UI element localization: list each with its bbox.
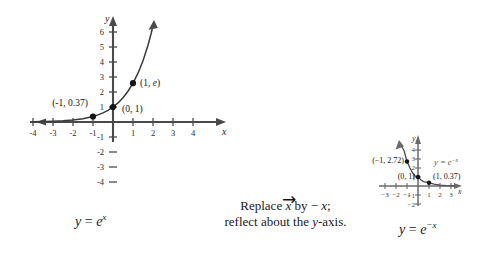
- point-label-0-1: (0, 1): [122, 104, 143, 115]
- x-tick-label: -4: [29, 128, 37, 138]
- x-tick-label: -2: [69, 128, 76, 138]
- inline-eq-main: y = e: [433, 157, 452, 167]
- left-eq-equals: =: [81, 214, 96, 229]
- right-eq-exponent: −x: [426, 220, 436, 230]
- y-tick-label: 3: [412, 155, 416, 163]
- line2-pre: reflect about the: [224, 214, 312, 229]
- x-tick-label: 1: [131, 128, 135, 138]
- right-equation-caption: y = e−x: [399, 222, 437, 238]
- x-tick-label: 4: [191, 128, 196, 138]
- y-tick-label: -3: [97, 162, 104, 172]
- inline-eq-exponent: −x: [452, 157, 459, 163]
- x-axis-label: x: [221, 126, 227, 137]
- point-label-1-e: (1, e): [140, 78, 160, 89]
- x-tick-label: 2: [151, 128, 155, 138]
- y-tick-label: -1: [97, 132, 104, 142]
- x-axis-label: x: [457, 187, 462, 196]
- right-graph-svg: −3 −2 −1 1 2 3 4 3 2 1 −1 −2 x y (−1, 2.…: [330, 124, 492, 216]
- line1-mid: by −: [291, 198, 321, 213]
- y-axis-label: y: [104, 13, 110, 24]
- y-tick-label: -2: [97, 147, 104, 157]
- figure-canvas: -4 -3 -2 -1 1 2 3 4 6 5 4 3 2 1 -1 -2 -3…: [0, 0, 495, 261]
- point-label-0-1: (0, 1): [398, 172, 416, 181]
- x-axis-arrowhead: [216, 118, 226, 126]
- point-label-neg1-272: (−1, 2.72): [372, 156, 404, 165]
- y-tick-label: 2: [100, 87, 104, 97]
- left-equation-caption: y = ex: [75, 214, 106, 230]
- line2-post: -axis.: [318, 214, 347, 229]
- left-eq-exponent: x: [102, 212, 106, 222]
- transform-instruction-line2: reflect about the y-axis.: [203, 214, 368, 230]
- left-graph-panel: -4 -3 -2 -1 1 2 3 4 6 5 4 3 2 1 -1 -2 -3…: [6, 2, 236, 202]
- y-tick-label: 5: [100, 42, 104, 52]
- y-tick-label: -4: [97, 177, 105, 187]
- curve-arrowhead: [149, 20, 158, 30]
- y-axis-label: y: [411, 134, 416, 143]
- right-eq-equals: =: [405, 222, 420, 237]
- point-label-1-037: (1, 0.37): [433, 172, 461, 181]
- x-tick-label: 2: [438, 191, 442, 199]
- x-tick-label: 3: [449, 191, 453, 199]
- data-point-marker: [416, 175, 420, 179]
- data-point-marker: [110, 104, 116, 110]
- y-tick-label: 6: [100, 27, 104, 37]
- x-tick-label: -3: [49, 128, 56, 138]
- y-tick-label: −1: [408, 192, 416, 200]
- x-tick-label: −3: [381, 191, 389, 199]
- point-label-neg1: (-1, 0.37): [52, 98, 88, 109]
- y-tick-label: 1: [100, 102, 104, 112]
- right-graph-panel: −3 −2 −1 1 2 3 4 3 2 1 −1 −2 x y (−1, 2.…: [330, 124, 492, 216]
- x-tick-label: 1: [427, 191, 431, 199]
- y-tick-label: −2: [408, 201, 416, 209]
- data-point-marker: [90, 113, 96, 119]
- x-tick-label: -1: [89, 128, 96, 138]
- y-axis-arrowhead: [109, 16, 117, 26]
- line1-pre: Replace: [240, 198, 285, 213]
- left-graph-svg: -4 -3 -2 -1 1 2 3 4 6 5 4 3 2 1 -1 -2 -3…: [6, 2, 236, 202]
- y-tick-label: 3: [100, 72, 104, 82]
- data-point-marker: [405, 159, 409, 163]
- inline-curve-equation: y = e−x: [433, 157, 459, 167]
- y-tick-label: 4: [100, 57, 105, 67]
- y-axis-arrowhead: [415, 135, 421, 144]
- x-tick-label: 3: [171, 128, 175, 138]
- data-point-marker: [130, 80, 136, 86]
- y-tick-label: 4: [412, 146, 416, 154]
- x-tick-label: −2: [392, 191, 400, 199]
- data-point-marker: [427, 181, 431, 185]
